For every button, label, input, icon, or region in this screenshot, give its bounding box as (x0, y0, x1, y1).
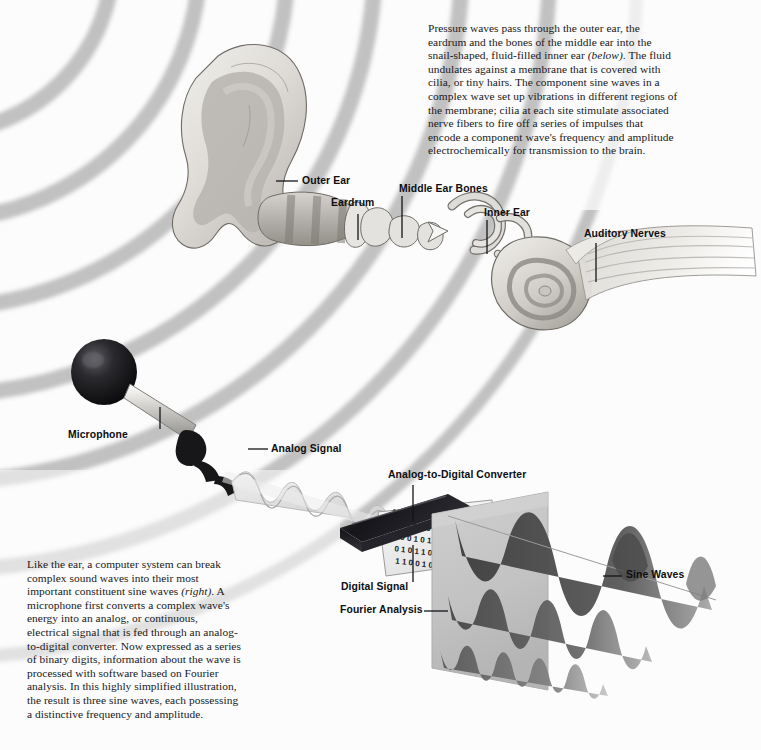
top-caption: Pressure waves pass through the outer ea… (428, 22, 678, 158)
label-fourier-analysis: Fourier Analysis (340, 604, 423, 615)
label-eardrum: Eardrum (331, 197, 374, 208)
label-outer-ear: Outer Ear (302, 175, 350, 186)
label-microphone: Microphone (68, 429, 128, 440)
label-inner-ear: Inner Ear (484, 207, 530, 218)
illustration-stage: 1 0 1 0 0 1 1 0 0 1 1 0 1 0 0 1 1 0 0 1 … (0, 0, 761, 750)
label-sine-waves: Sine Waves (626, 569, 684, 580)
label-middle-ear-bones: Middle Ear Bones (399, 183, 488, 194)
label-analog-signal: Analog Signal (271, 443, 342, 454)
bottom-caption: Like the ear, a computer system can brea… (27, 558, 242, 721)
label-digital-signal: Digital Signal (341, 581, 408, 592)
label-analog-to-digital-converter: Analog-to-Digital Converter (388, 469, 526, 480)
label-auditory-nerves: Auditory Nerves (584, 228, 666, 239)
